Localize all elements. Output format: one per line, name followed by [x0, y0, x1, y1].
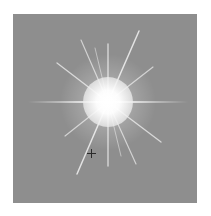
image-canvas [13, 14, 197, 203]
flare-core [96, 90, 120, 114]
lens-flare-graphic [13, 14, 197, 203]
image-caption [40, 205, 170, 214]
crosshair-cursor-icon [87, 149, 96, 158]
